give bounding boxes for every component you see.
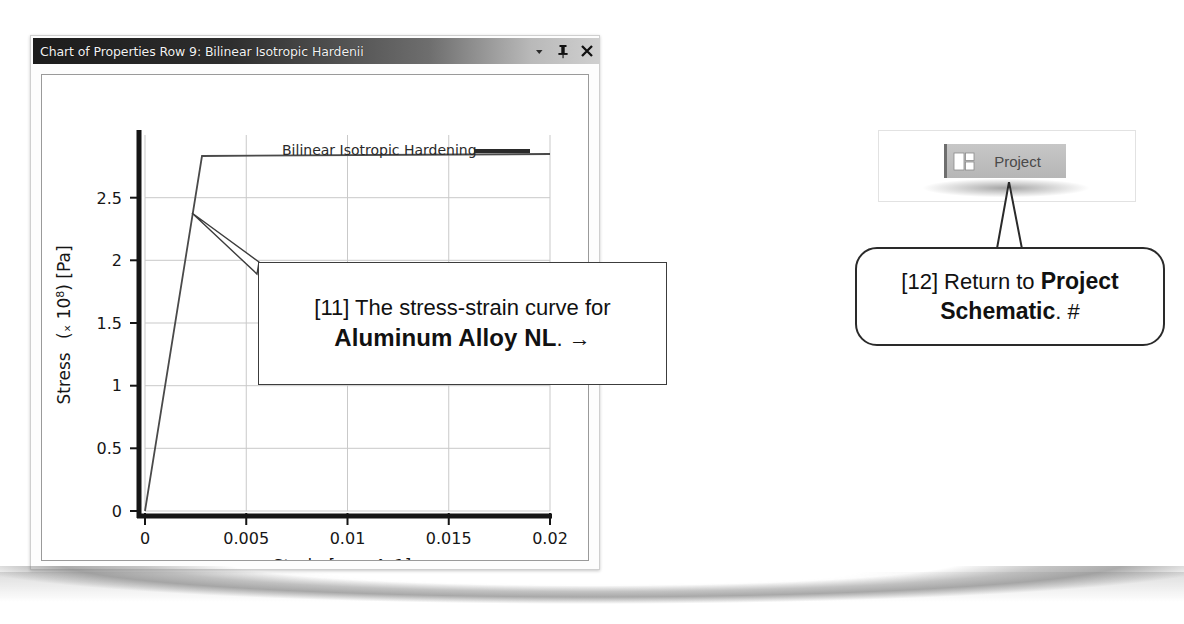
project-button[interactable]: Project bbox=[944, 144, 1066, 178]
y-tick-label: 1 bbox=[112, 376, 122, 395]
callout-12-text: [12] Return to Project Schematic. # bbox=[887, 267, 1132, 326]
window-title-bar[interactable]: Chart of Properties Row 9: Bilinear Isot… bbox=[33, 38, 599, 64]
callout-11-line1: The stress-strain curve for bbox=[349, 295, 610, 320]
callout-12-bold1: Project bbox=[1041, 268, 1119, 294]
y-tick-label: 0.5 bbox=[97, 439, 122, 458]
callout-12: [12] Return to Project Schematic. # bbox=[855, 247, 1165, 346]
callout-11-bold: Aluminum Alloy NL bbox=[334, 324, 556, 351]
callout-11-text: [11] The stress-strain curve for Aluminu… bbox=[302, 293, 622, 354]
chevron-down-icon[interactable] bbox=[527, 39, 551, 63]
callout-12-line1: Return to bbox=[938, 269, 1041, 294]
y-tick-label: 2 bbox=[112, 251, 122, 270]
y-tick-label: 1.5 bbox=[97, 314, 122, 333]
y-axis-title-exponent: 8 bbox=[54, 291, 67, 298]
y-axis-title-tail: ) [Pa] bbox=[54, 245, 74, 290]
x-tick-label: 0 bbox=[140, 529, 150, 548]
callout-12-tag: [12] bbox=[901, 269, 938, 294]
project-button-label: Project bbox=[975, 153, 1066, 170]
chart-legend: Bilinear Isotropic Hardening bbox=[282, 142, 530, 158]
layout-panels-icon bbox=[953, 151, 975, 172]
y-axis-title: Stress (ₓ 108) [Pa] bbox=[54, 245, 75, 404]
y-tick-label: 2.5 bbox=[97, 189, 122, 208]
close-icon[interactable] bbox=[575, 39, 599, 63]
legend-label: Bilinear Isotropic Hardening bbox=[282, 142, 477, 158]
x-tick-label: 0.02 bbox=[532, 529, 568, 548]
x-tick-label: 0.005 bbox=[223, 529, 269, 548]
y-axis-title-main: Stress bbox=[54, 352, 74, 404]
window-title: Chart of Properties Row 9: Bilinear Isot… bbox=[33, 44, 527, 59]
x-axis-title: Strain [m m^-1] bbox=[273, 556, 412, 560]
y-tick-label: 0 bbox=[112, 502, 122, 521]
x-tick-label: 0.01 bbox=[330, 529, 366, 548]
callout-11-tag: [11] bbox=[314, 295, 349, 320]
callout-12-bold2: Schematic bbox=[940, 298, 1055, 324]
callout-12-line2-tail: . # bbox=[1055, 299, 1079, 324]
y-axis-title-unit: (ₓ 10 bbox=[54, 298, 74, 339]
x-tick-label: 0.015 bbox=[426, 529, 472, 548]
pin-icon[interactable] bbox=[551, 39, 575, 63]
callout-11: [11] The stress-strain curve for Aluminu… bbox=[258, 262, 667, 385]
svg-text:Stress (ₓ 108) [Pa]: Stress (ₓ 108) [Pa] bbox=[54, 245, 75, 404]
callout-11-line2-tail: . → bbox=[556, 326, 590, 351]
